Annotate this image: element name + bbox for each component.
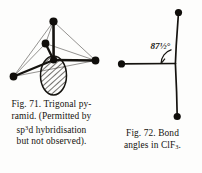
clf3-bonds — [122, 13, 179, 117]
caption-line-2: angles in ClF3. — [103, 140, 202, 153]
central-atom — [50, 56, 57, 63]
caption-line-1: Fig. 72. Bond — [103, 128, 202, 140]
caption-sp-text: sp — [17, 125, 26, 135]
figure-page: Fig. 71. Trigonal py- ramid. (Permitted … — [0, 0, 202, 173]
basal-atom-back — [42, 40, 50, 48]
caption-hybridisation-text: d hybridisation — [28, 125, 86, 135]
figure-71: Fig. 71. Trigonal py- ramid. (Permitted … — [0, 0, 103, 173]
clf3-bond-angle-diagram: 87½° — [103, 0, 202, 128]
caption-line-4: but not observed). — [0, 136, 103, 148]
basal-atom-right — [92, 57, 100, 65]
axial-bond-up — [175, 13, 178, 64]
caption-period: . — [179, 140, 181, 150]
caption-angles-text: angles in ClF — [124, 140, 175, 150]
figure-72: 87½° Fig. 72. Bond angles in ClF3. — [103, 0, 202, 173]
caption-line-3: sp3d hybridisation — [0, 122, 103, 136]
trigonal-pyramid-diagram — [0, 0, 103, 98]
caption-line-2: ramid. (Permitted by — [0, 111, 103, 123]
fluorine-atom-bottom — [174, 113, 181, 120]
fluorine-atom-top — [175, 9, 182, 16]
basal-atom-left — [10, 73, 18, 81]
bond-angle-arc — [161, 50, 172, 64]
bond-angle-label: 87½° — [151, 41, 171, 51]
axial-bond-down — [175, 64, 177, 117]
figure-71-caption: Fig. 71. Trigonal py- ramid. (Permitted … — [0, 99, 103, 148]
caption-line-1: Fig. 71. Trigonal py- — [0, 99, 103, 111]
figure-72-caption: Fig. 72. Bond angles in ClF3. — [103, 128, 202, 152]
fluorine-atom-left — [118, 60, 125, 67]
apex-atom — [49, 17, 57, 25]
